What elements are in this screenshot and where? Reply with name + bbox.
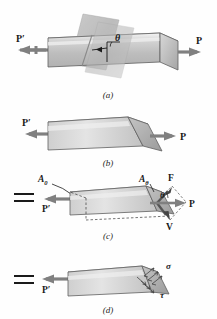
panel-b-label-p: P	[180, 131, 186, 142]
panel-c-equals-sign	[14, 194, 34, 201]
panel-c-label-a0: A0	[37, 174, 48, 186]
panel-a-caption: (a)	[103, 90, 114, 100]
panel-a: P′ θ	[16, 14, 202, 100]
panel-d-label-p-prime: P′	[42, 285, 51, 295]
panel-c-caption: (c)	[103, 231, 113, 241]
panel-c-load-arrow-left	[44, 195, 70, 204]
panel-d-label-sigma: σ	[166, 261, 172, 271]
panel-d-caption: (d)	[103, 305, 114, 315]
panel-a-label-theta: θ	[115, 32, 121, 43]
panel-c-label-p-prime: P′	[42, 204, 51, 214]
panel-b-bar-front-face	[48, 117, 143, 150]
panel-c-leader-a0	[52, 184, 71, 194]
figure-oblique-plane-stress: P′ θ	[0, 0, 217, 319]
panel-a-label-p: P	[196, 35, 202, 46]
panel-b-caption: (b)	[103, 158, 114, 168]
panel-a-label-p-prime: P′	[16, 33, 25, 44]
panel-c-label-a-theta: Aθ	[138, 174, 149, 186]
panel-d-load-arrow-left	[42, 275, 68, 284]
panel-c-label-f: F	[168, 173, 174, 183]
panel-b: P′ P (b)	[22, 117, 186, 168]
panel-b-label-p-prime: P′	[22, 117, 31, 128]
panel-c-label-theta: θ	[160, 190, 165, 200]
figure-canvas: P′ θ	[0, 0, 217, 319]
panel-d-equals-sign	[14, 276, 34, 283]
panel-c-label-v: V	[166, 222, 173, 232]
panel-a-load-arrow-right	[178, 48, 201, 57]
panel-c-label-p: P	[189, 199, 195, 209]
panel-b-load-arrow-left	[25, 130, 48, 139]
panel-a-load-arrow-left	[18, 46, 48, 55]
